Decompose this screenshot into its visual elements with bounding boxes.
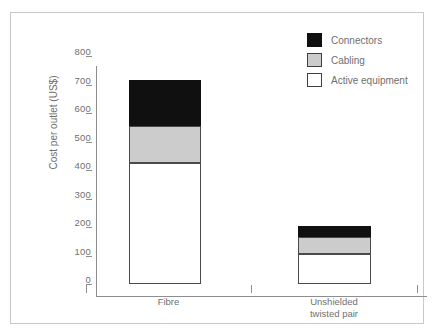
x-axis-separator-tick (251, 285, 252, 293)
stacked-bar (129, 56, 201, 284)
y-axis-tick-label-wrap: 500 (39, 142, 91, 143)
x-axis-separator-tick (417, 285, 418, 293)
y-axis-tick-label: 100 (45, 251, 91, 252)
legend-label-connectors: Connectors (331, 35, 382, 46)
y-axis-tick-label-wrap: 100 (39, 256, 91, 257)
y-axis-tick-label: 200 (45, 222, 91, 223)
y-axis-tick-label-wrap: 700 (39, 85, 91, 86)
bar-segment-active-equipment (129, 163, 201, 284)
x-axis-category-label: Unshieldedtwisted pair (251, 296, 417, 320)
bar-segment-cabling (129, 126, 201, 163)
x-axis-category-label: Fibre (86, 296, 251, 308)
x-axis-category-label-line: Fibre (86, 296, 251, 308)
y-axis-tick-label-wrap: 600 (39, 113, 91, 114)
bar-segment-cabling (298, 237, 371, 254)
figure: Connectors Cabling Active equipment Cost… (0, 0, 439, 336)
y-axis-tick-label: 300 (45, 194, 91, 195)
y-axis-tick-label-wrap: 300 (39, 199, 91, 200)
y-axis-tick-label: 0 (45, 279, 91, 280)
y-axis-tick-label-wrap: 400 (39, 170, 91, 171)
bar-segment-connectors (298, 226, 371, 237)
y-axis-line (96, 66, 97, 297)
x-axis-separator-tick (86, 285, 87, 293)
y-axis-title: Cost per outlet (US$) (48, 43, 59, 203)
legend-swatch-connectors (307, 33, 322, 47)
x-axis-category-label-line: twisted pair (251, 308, 417, 320)
bar-segment-active-equipment (298, 254, 371, 284)
figure-frame: Connectors Cabling Active equipment Cost… (10, 12, 424, 324)
y-axis-tick-label: 400 (45, 165, 91, 166)
stacked-bar (298, 56, 371, 284)
y-axis-tick-label: 800 (45, 51, 91, 52)
x-axis-category-label-line: Unshielded (251, 296, 417, 308)
y-axis-tick-label-wrap: 800 (39, 56, 91, 57)
y-axis-tick-label: 600 (45, 108, 91, 109)
y-axis-tick-label: 500 (45, 137, 91, 138)
legend-item-connectors: Connectors (307, 30, 408, 50)
y-axis-tick-label-wrap: 0 (39, 284, 91, 285)
y-axis-tick-label-wrap: 200 (39, 227, 91, 228)
y-axis-tick-label: 700 (45, 80, 91, 81)
bar-segment-connectors (129, 80, 201, 126)
